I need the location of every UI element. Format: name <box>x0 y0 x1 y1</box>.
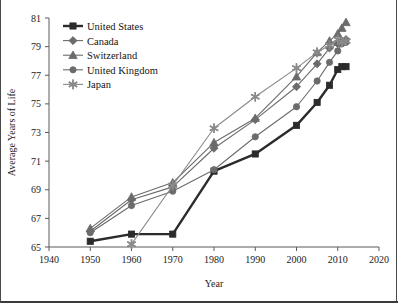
y-tick-label: 69 <box>31 184 41 195</box>
x-tick-label: 1990 <box>245 254 265 265</box>
legend-item-united-kingdom[interactable]: United Kingdom <box>63 65 158 76</box>
x-tick-label: 1950 <box>80 254 100 265</box>
legend-marker-icon <box>70 23 76 29</box>
data-point-marker <box>87 238 93 244</box>
y-tick-label: 79 <box>31 41 41 52</box>
data-point-marker <box>326 82 332 88</box>
data-point-marker <box>128 231 134 237</box>
data-point-marker <box>293 122 299 128</box>
y-axis-title: Average Years of Life <box>6 88 17 176</box>
data-point-marker <box>170 231 176 237</box>
legend-label: United States <box>87 21 143 32</box>
chart-plot-area: 6567697173757779811940195019601970198019… <box>1 0 398 303</box>
legend-label: United Kingdom <box>87 65 158 76</box>
y-tick-label: 71 <box>31 156 41 167</box>
x-tick-label: 1980 <box>204 254 224 265</box>
x-tick-label: 2000 <box>287 254 307 265</box>
x-tick-label: 2010 <box>328 254 348 265</box>
data-point-marker <box>128 202 134 208</box>
legend-label: Japan <box>87 79 112 90</box>
legend-item-japan[interactable]: Japan <box>63 79 112 90</box>
legend-marker-icon <box>70 67 76 73</box>
y-tick-label: 65 <box>31 242 41 253</box>
legend-marker-icon <box>69 37 77 45</box>
y-tick-label: 75 <box>31 98 41 109</box>
y-tick-label: 81 <box>31 13 41 24</box>
data-point-marker <box>326 59 332 65</box>
x-tick-label: 1960 <box>122 254 142 265</box>
data-point-marker <box>314 78 320 84</box>
series-line <box>132 39 347 244</box>
data-point-marker <box>342 18 350 26</box>
legend-label: Canada <box>87 36 119 47</box>
legend-item-canada[interactable]: Canada <box>63 36 119 47</box>
legend-label: Switzerland <box>87 50 138 61</box>
x-tick-label: 1970 <box>163 254 183 265</box>
data-point-marker <box>127 193 135 201</box>
line-chart: 6567697173757779811940195019601970198019… <box>1 0 398 303</box>
x-axis-title: Year <box>205 278 224 289</box>
chart-legend: United StatesCanadaSwitzerlandUnited Kin… <box>63 21 158 90</box>
y-tick-label: 67 <box>31 213 41 224</box>
x-tick-label: 2020 <box>369 254 389 265</box>
data-point-marker <box>87 230 93 236</box>
data-point-marker <box>210 138 218 146</box>
data-point-marker <box>252 134 258 140</box>
y-tick-label: 73 <box>31 127 41 138</box>
y-tick-label: 77 <box>31 70 41 81</box>
data-point-marker <box>252 151 258 157</box>
legend-item-switzerland[interactable]: Switzerland <box>63 50 138 61</box>
data-point-marker <box>211 167 217 173</box>
data-point-marker <box>314 99 320 105</box>
data-point-marker <box>293 104 299 110</box>
legend-item-united-states[interactable]: United States <box>63 21 143 32</box>
data-point-marker <box>343 64 349 70</box>
data-point-marker <box>335 48 341 54</box>
data-point-marker <box>251 92 259 102</box>
x-tick-label: 1940 <box>39 254 59 265</box>
data-point-marker <box>292 63 300 73</box>
